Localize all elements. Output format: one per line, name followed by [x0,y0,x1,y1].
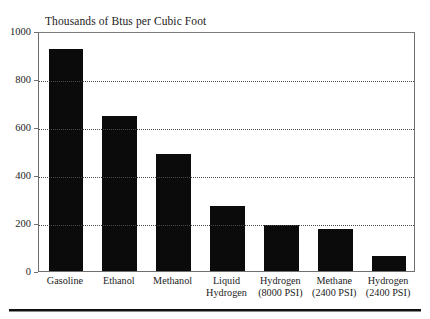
y-tick-label: 1000 [10,27,31,37]
x-tick-label: Gasoline [34,275,96,287]
y-tick-label: 800 [15,75,31,85]
x-tick-label-line1: Methanol [153,275,192,286]
gridline [39,177,414,178]
x-tick-label-line1: Hydrogen [260,275,301,286]
chart-title: Thousands of Btus per Cubic Foot [45,14,206,28]
bar [49,49,84,271]
y-tick-label: 0 [26,267,31,277]
y-tick-label: 400 [15,171,31,181]
gridline [39,81,414,82]
x-tick-label-line1: Ethanol [103,275,135,286]
bar [264,225,299,271]
x-tick-label: Methane(2400 PSI) [303,275,365,300]
x-tick-label: LiquidHydrogen [196,275,258,300]
gridline [39,129,414,130]
x-tick-label-line1: Liquid [213,275,240,286]
y-tick-mark [34,272,38,273]
gridline [39,225,414,226]
x-tick-label: Ethanol [88,275,150,287]
bar-series [39,33,414,271]
chart-figure: Thousands of Btus per Cubic Foot 0200400… [0,0,430,319]
x-tick-label-line2: (2400 PSI) [357,287,419,299]
bar [372,256,407,271]
y-axis: 02004006008001000 [0,32,38,272]
y-tick-label: 200 [15,219,31,229]
footer-rule [9,309,421,311]
bar [318,229,353,271]
x-tick-label-line2: (8000 PSI) [249,287,311,299]
x-tick-label-line1: Methane [316,275,352,286]
x-tick-label: Methanol [142,275,204,287]
x-tick-label-line2: Hydrogen [196,287,258,299]
bar [156,154,191,271]
x-tick-label-line1: Hydrogen [368,275,409,286]
y-tick-label: 600 [15,123,31,133]
x-tick-label-line1: Gasoline [47,275,83,286]
x-tick-label: Hydrogen(8000 PSI) [249,275,311,300]
plot-area [38,32,415,272]
bar [102,116,137,271]
bar [210,206,245,271]
x-tick-label-line2: (2400 PSI) [303,287,365,299]
x-axis: GasolineEthanolMethanolLiquidHydrogenHyd… [38,275,415,309]
x-tick-label: Hydrogen(2400 PSI) [357,275,419,300]
